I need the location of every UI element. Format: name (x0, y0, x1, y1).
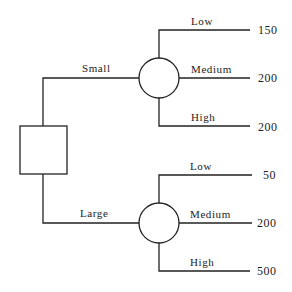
outcome-label-large-high: High (190, 256, 214, 268)
branch-line-small (43, 78, 139, 126)
decision-node (20, 126, 67, 174)
outcome-label-small-medium: Medium (191, 63, 232, 75)
outcome-value-large-low: 50 (263, 168, 276, 182)
branch-label-large: Large (80, 207, 108, 219)
outcome-line-large-low (159, 175, 252, 203)
outcome-value-small-low: 150 (258, 23, 278, 37)
outcome-label-large-low: Low (190, 160, 212, 172)
outcome-value-large-high: 500 (257, 264, 277, 278)
outcome-line-small-low (159, 30, 250, 58)
outcome-value-large-medium: 200 (257, 216, 277, 230)
outcome-value-small-high: 200 (258, 120, 278, 134)
branch-label-small: Small (82, 62, 111, 74)
decision-tree-diagram: Small Large Low Medium High 150 200 200 … (0, 0, 292, 292)
outcome-label-large-medium: Medium (190, 208, 231, 220)
outcome-value-small-medium: 200 (258, 71, 278, 85)
chance-node-small (139, 58, 179, 98)
outcome-label-small-high: High (191, 111, 215, 123)
chance-node-large (139, 203, 179, 243)
outcome-label-small-low: Low (191, 15, 213, 27)
